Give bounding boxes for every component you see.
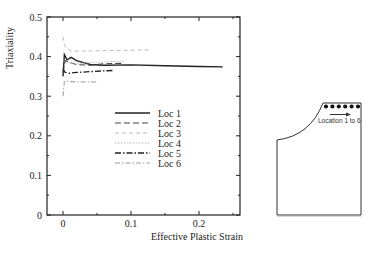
series-line	[63, 37, 151, 51]
arrow-icon	[330, 113, 351, 117]
axes: 00.10.20.30.40.500.10.2	[30, 12, 241, 230]
series-line	[63, 55, 223, 77]
location-dot	[330, 104, 334, 108]
plot-area	[63, 37, 223, 96]
y-tick-label: 0.2	[30, 130, 43, 141]
x-axis-label: Effective Plastic Strain	[151, 231, 243, 242]
series-line	[63, 61, 124, 64]
legend: Loc 1Loc 2Loc 3Loc 4Loc 5Loc 6	[115, 108, 181, 169]
plot-frame	[47, 17, 240, 215]
location-dot	[343, 104, 347, 108]
series-line	[63, 81, 97, 96]
location-dots	[324, 104, 360, 108]
y-tick-label: 0.5	[30, 12, 43, 23]
y-axis-label: Triaxiality	[4, 27, 15, 69]
y-tick-label: 0.4	[30, 51, 43, 62]
location-dot	[356, 104, 360, 108]
x-tick-label: 0	[61, 218, 66, 229]
y-tick-label: 0.1	[30, 170, 43, 181]
y-tick-label: 0	[37, 210, 42, 221]
location-dot	[337, 104, 341, 108]
triaxiality-chart: 00.10.20.30.40.500.10.2 Loc 1Loc 2Loc 3L…	[0, 0, 380, 253]
x-tick-label: 0.2	[193, 218, 206, 229]
specimen-diagram: Location 1 to 6	[277, 103, 361, 216]
legend-label: Loc 6	[158, 158, 181, 169]
series-line	[63, 68, 114, 73]
location-dot	[324, 104, 328, 108]
x-tick-label: 0.1	[125, 218, 138, 229]
y-tick-label: 0.3	[30, 91, 43, 102]
location-dot	[350, 104, 354, 108]
location-label: Location 1 to 6	[318, 117, 361, 124]
